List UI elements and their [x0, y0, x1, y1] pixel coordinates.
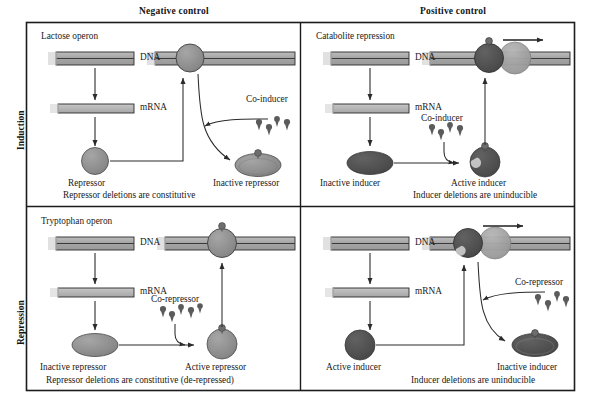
rna-bar [325, 104, 409, 113]
protein-activator-bound [454, 229, 483, 258]
label-dna: DNA [140, 237, 160, 247]
dna-bar-operon [147, 52, 295, 65]
panel-title-catabolite-repression: Catabolite repression [316, 31, 395, 41]
protein-inactive-inducer [347, 152, 393, 175]
label-inactive-inducer: Inactive inducer [497, 362, 557, 372]
arrow-inducer-released [478, 262, 505, 341]
arrow-coinducer-join [444, 142, 454, 163]
panel-tryptophan-operon [48, 223, 295, 359]
caption-positive-control-repression: Inducer deletions are uninducible [411, 375, 535, 385]
caption-lactose-operon: Repressor deletions are constitutive [63, 190, 195, 200]
label-repressor: Repressor [68, 178, 105, 188]
label-dna: DNA [415, 237, 435, 247]
panel-lactose-operon [48, 44, 295, 177]
ligand-corepressor-group [535, 291, 569, 311]
label-inactive-repressor: Inactive repressor [40, 362, 106, 372]
figure-root: Negative control Positive control Induct… [0, 0, 596, 406]
label-mrna: mRNA [415, 286, 442, 296]
rna-bar [50, 288, 134, 297]
caption-catabolite-repression: Inducer deletions are uninducible [413, 190, 537, 200]
protein-inactive-inducer [512, 330, 558, 357]
dna-bar-regulatory [323, 52, 409, 65]
panel-title-lactose-operon: Lactose operon [41, 31, 98, 41]
label-co-inducer: Co-inducer [421, 113, 463, 123]
protein-repressor-bound [176, 44, 204, 72]
protein-active-inducer [345, 330, 375, 360]
label-inactive-inducer: Inactive inducer [320, 178, 380, 188]
protein-inactive-repressor [235, 150, 281, 177]
label-inactive-repressor: Inactive repressor [213, 178, 279, 188]
label-active-inducer: Active inducer [451, 178, 506, 188]
label-dna: DNA [140, 52, 160, 62]
dna-bar-regulatory [48, 52, 134, 65]
label-mrna: mRNA [415, 102, 442, 112]
ligand-coinducer-group [429, 122, 463, 140]
arrow-corepressor-join [175, 324, 185, 345]
protein-active-repressor [207, 325, 237, 359]
rna-bar [50, 104, 134, 113]
label-dna: DNA [415, 52, 435, 62]
arrow-repressor-released [198, 74, 230, 160]
panel-frame [27, 23, 575, 391]
protein-activator-bound [475, 38, 504, 73]
protein-repressor-bound [208, 223, 237, 258]
arrow-repressor-binds [110, 78, 183, 161]
label-active-repressor: Active repressor [185, 362, 246, 372]
protein-repressor [82, 148, 109, 175]
rna-polymerase [479, 227, 511, 259]
label-mrna: mRNA [140, 102, 167, 112]
panel-title-tryptophan-operon: Tryptophan operon [41, 216, 112, 226]
arrow-inducer-binds [376, 265, 464, 345]
panel-positive-control-repression [323, 226, 570, 360]
panel-catabolite-repression [323, 38, 576, 177]
row-header-repression: Repression [16, 300, 26, 345]
protein-inactive-repressor [72, 334, 118, 357]
protein-active-inducer [470, 143, 500, 177]
dna-bar-regulatory [323, 237, 409, 250]
column-header-positive-control: Positive control [420, 6, 486, 16]
ligand-corepressor-group [160, 303, 203, 322]
dna-bar-regulatory [48, 237, 134, 250]
column-header-negative-control: Negative control [139, 6, 209, 16]
label-co-repressor: Co-repressor [515, 277, 563, 287]
caption-tryptophan-operon: Repressor deletions are constitutive (de… [46, 375, 234, 385]
label-co-repressor: Co-repressor [151, 294, 199, 304]
diagram-canvas [0, 0, 596, 406]
rna-bar [325, 288, 409, 297]
label-active-inducer: Active inducer [326, 362, 381, 372]
label-co-inducer: Co-inducer [246, 94, 288, 104]
row-header-induction: Induction [16, 110, 26, 150]
